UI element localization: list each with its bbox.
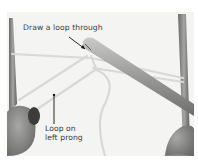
left-prong	[9, 18, 17, 112]
annotation-loop-left-prong: Loop on left prong	[45, 125, 83, 142]
right-prong	[178, 14, 190, 144]
annotation-line-2: left prong	[45, 134, 83, 143]
photo-illustration	[7, 12, 194, 156]
instruction-photo	[7, 12, 194, 156]
right-hand	[165, 126, 194, 157]
annotation-draw-loop: Draw a loop through	[23, 24, 103, 33]
